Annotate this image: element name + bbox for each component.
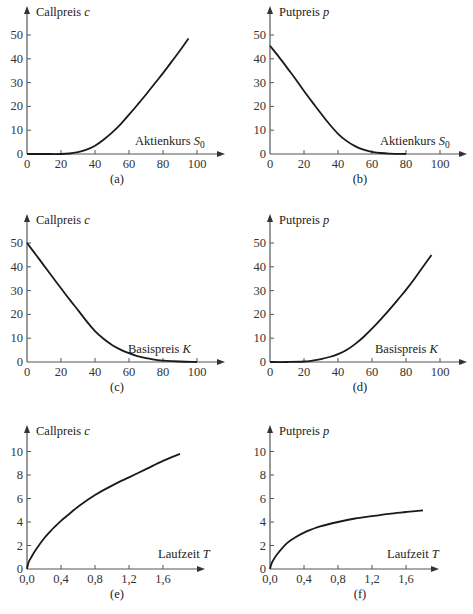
y-tick-label: 0 <box>260 355 266 369</box>
x-tick-label: 20 <box>298 365 311 379</box>
x-tick-label: 100 <box>188 365 207 379</box>
y-axis-label: Callpreis c <box>36 213 90 227</box>
chart-panel-a: 02040608010001020304050Callpreis cAktien… <box>11 5 226 186</box>
y-tick-label: 40 <box>11 260 24 274</box>
y-tick-label: 2 <box>17 539 23 553</box>
y-tick-label: 40 <box>11 52 24 66</box>
y-tick-label: 10 <box>11 123 24 137</box>
x-axis-arrow-icon <box>459 359 467 365</box>
chart-panel-e: 0,00,40,81,21,60246810Callpreis cLaufzei… <box>11 424 211 601</box>
y-axis-arrow-icon <box>267 6 273 14</box>
x-tick-label: 80 <box>400 365 413 379</box>
y-axis-arrow-icon <box>24 425 30 433</box>
panel-caption: (d) <box>353 380 368 394</box>
y-tick-label: 8 <box>260 468 266 482</box>
y-tick-label: 0 <box>17 147 23 161</box>
y-tick-label: 30 <box>11 76 24 90</box>
chart-panel-d: 02040608010001020304050Putpreis pBasispr… <box>254 213 468 394</box>
y-tick-label: 0 <box>17 355 23 369</box>
x-tick-label: 0,8 <box>330 572 346 586</box>
x-tick-label: 0 <box>267 157 273 171</box>
y-tick-label: 4 <box>17 515 24 529</box>
x-axis-label: Laufzeit T <box>158 547 211 561</box>
y-axis-arrow-icon <box>267 214 273 222</box>
y-tick-label: 10 <box>254 123 267 137</box>
x-axis-arrow-icon <box>459 151 467 157</box>
chart-panel-b: 02040608010001020304050Putpreis pAktienk… <box>254 5 468 186</box>
y-tick-label: 50 <box>254 28 267 42</box>
y-axis-arrow-icon <box>267 425 273 433</box>
x-tick-label: 20 <box>55 157 68 171</box>
x-tick-label: 40 <box>332 157 345 171</box>
x-axis-arrow-icon <box>197 566 205 572</box>
x-axis-arrow-icon <box>217 151 225 157</box>
x-tick-label: 1,2 <box>121 572 137 586</box>
y-tick-label: 30 <box>254 76 267 90</box>
x-tick-label: 40 <box>89 157 102 171</box>
y-tick-label: 40 <box>254 52 267 66</box>
y-tick-label: 20 <box>254 99 267 113</box>
x-tick-label: 80 <box>157 157 170 171</box>
x-tick-label: 100 <box>431 365 450 379</box>
x-axis-label: Aktienkurs S0 <box>135 134 205 150</box>
y-tick-label: 10 <box>254 331 267 345</box>
x-tick-label: 0 <box>267 365 273 379</box>
x-axis-label: Basispreis K <box>375 342 439 356</box>
x-tick-label: 40 <box>332 365 345 379</box>
x-axis-label: Laufzeit T <box>387 547 440 561</box>
panel-caption: (b) <box>353 172 368 186</box>
x-axis-arrow-icon <box>431 566 439 572</box>
panel-caption: (a) <box>110 172 124 186</box>
y-tick-label: 0 <box>260 147 266 161</box>
y-tick-label: 2 <box>260 539 266 553</box>
y-axis-arrow-icon <box>24 6 30 14</box>
panel-caption: (f) <box>354 587 367 601</box>
x-axis-arrow-icon <box>217 359 225 365</box>
x-tick-label: 100 <box>431 157 450 171</box>
chart-panel-f: 0,00,40,81,21,60246810Putpreis pLaufzeit… <box>254 424 440 601</box>
y-tick-label: 4 <box>260 515 267 529</box>
y-tick-label: 30 <box>254 284 267 298</box>
x-tick-label: 60 <box>366 157 379 171</box>
x-tick-label: 80 <box>400 157 413 171</box>
y-tick-label: 6 <box>260 492 266 506</box>
y-tick-label: 8 <box>17 468 23 482</box>
y-tick-label: 50 <box>254 236 267 250</box>
panel-caption: (c) <box>110 380 124 394</box>
x-tick-label: 20 <box>55 365 68 379</box>
x-tick-label: 0 <box>24 157 30 171</box>
y-tick-label: 0 <box>260 562 266 576</box>
y-axis-label: Putpreis p <box>279 213 329 227</box>
x-tick-label: 0,4 <box>53 572 69 586</box>
x-tick-label: 60 <box>366 365 379 379</box>
y-axis-label: Callpreis c <box>36 5 90 19</box>
x-tick-label: 80 <box>157 365 170 379</box>
y-tick-label: 0 <box>17 562 23 576</box>
y-axis-label: Callpreis c <box>36 424 90 438</box>
y-tick-label: 50 <box>11 236 24 250</box>
x-axis-label: Basispreis K <box>128 342 192 356</box>
x-tick-label: 60 <box>123 157 136 171</box>
panel-caption: (e) <box>110 587 124 601</box>
y-tick-label: 40 <box>254 260 267 274</box>
x-tick-label: 0 <box>24 365 30 379</box>
x-axis-label: Aktienkurs S0 <box>380 134 450 150</box>
y-tick-label: 20 <box>11 99 24 113</box>
y-tick-label: 30 <box>11 284 24 298</box>
y-tick-label: 10 <box>11 445 24 459</box>
option-price-figure: 02040608010001020304050Callpreis cAktien… <box>0 0 473 614</box>
y-axis-label: Putpreis p <box>279 424 329 438</box>
y-tick-label: 10 <box>254 445 267 459</box>
y-tick-label: 20 <box>254 307 267 321</box>
y-tick-label: 10 <box>11 331 24 345</box>
x-tick-label: 0,8 <box>87 572 103 586</box>
x-tick-label: 1,6 <box>398 572 414 586</box>
x-tick-label: 1,2 <box>364 572 380 586</box>
y-axis-arrow-icon <box>24 214 30 222</box>
x-tick-label: 0,4 <box>296 572 312 586</box>
x-tick-label: 40 <box>89 365 102 379</box>
x-tick-label: 100 <box>188 157 207 171</box>
x-tick-label: 1,6 <box>155 572 171 586</box>
chart-panel-c: 02040608010001020304050Callpreis cBasisp… <box>11 213 226 394</box>
x-tick-label: 20 <box>298 157 311 171</box>
